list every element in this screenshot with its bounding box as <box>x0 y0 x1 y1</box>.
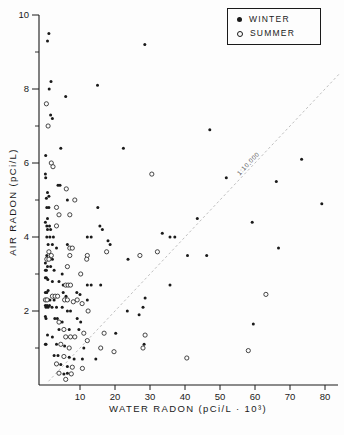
data-point-winter <box>126 310 129 313</box>
data-point-winter <box>48 88 51 91</box>
data-point-winter <box>53 354 56 357</box>
data-point-winter <box>55 306 58 309</box>
data-point-winter <box>51 280 54 283</box>
data-point-winter <box>64 95 67 98</box>
data-point-winter <box>48 304 51 307</box>
data-point-summer <box>68 213 72 217</box>
data-point-winter <box>45 269 48 272</box>
data-point-winter <box>186 254 189 257</box>
data-point-summer <box>54 205 58 209</box>
data-point-summer <box>64 335 68 339</box>
filled-circle-icon <box>237 17 242 22</box>
data-point-winter <box>45 236 48 239</box>
data-point-summer <box>44 102 48 106</box>
data-point-summer <box>264 292 268 296</box>
data-point-winter <box>251 221 254 224</box>
data-point-winter <box>99 284 102 287</box>
data-point-winter <box>57 354 60 357</box>
data-point-winter <box>44 221 47 224</box>
x-tick-label: 20 <box>110 391 121 402</box>
data-point-winter <box>44 173 47 176</box>
data-point-winter <box>94 358 97 361</box>
data-point-summer <box>67 346 71 350</box>
data-point-summer <box>73 335 77 339</box>
data-point-summer <box>64 377 68 381</box>
data-point-winter <box>143 343 146 346</box>
data-point-winter <box>66 199 69 202</box>
data-point-winter <box>68 328 71 331</box>
data-point-winter <box>59 147 62 150</box>
data-point-winter <box>107 239 110 242</box>
data-point-winter <box>196 217 199 220</box>
data-point-winter <box>68 356 71 359</box>
data-point-winter <box>46 39 49 42</box>
data-point-summer <box>85 339 89 343</box>
data-point-winter <box>114 332 117 335</box>
data-point-summer <box>112 350 116 354</box>
data-point-summer <box>69 372 73 376</box>
data-point-winter <box>44 154 47 157</box>
data-point-winter <box>205 254 208 257</box>
data-point-winter <box>73 358 76 361</box>
data-point-winter <box>45 343 48 346</box>
data-point-winter <box>62 291 65 294</box>
data-point-winter <box>173 236 176 239</box>
data-point-winter <box>75 291 78 294</box>
data-point-winter <box>47 206 50 209</box>
data-point-summer <box>68 283 72 287</box>
x-tick-label: 70 <box>285 391 296 402</box>
data-point-summer <box>73 198 77 202</box>
data-point-summer <box>82 331 86 335</box>
data-point-summer <box>64 187 68 191</box>
data-point-summer <box>56 294 60 298</box>
data-point-winter <box>65 295 68 298</box>
data-point-winter <box>66 310 69 313</box>
data-point-winter <box>169 236 172 239</box>
data-point-winter <box>66 365 69 368</box>
data-point-winter <box>76 317 79 320</box>
data-point-summer <box>86 309 90 313</box>
x-axis-title: WATER RADON (pCi/L · 10³) <box>109 403 267 414</box>
data-point-summer <box>141 346 145 350</box>
data-point-winter <box>98 224 101 227</box>
data-point-winter <box>45 254 48 257</box>
data-point-summer <box>155 250 159 254</box>
data-point-winter <box>161 232 164 235</box>
data-point-winter <box>86 298 89 301</box>
data-point-winter <box>46 217 49 220</box>
data-point-winter <box>61 306 64 309</box>
data-point-winter <box>51 335 54 338</box>
y-axis: 246810 <box>18 9 39 385</box>
legend-item-summer: SUMMER <box>237 28 314 39</box>
data-point-summer <box>185 356 189 360</box>
y-tick-label: 4 <box>24 231 29 242</box>
data-point-summer <box>65 298 69 302</box>
data-point-winter <box>46 278 49 281</box>
data-point-winter <box>62 372 65 375</box>
data-point-winter <box>143 43 146 46</box>
data-point-winter <box>101 228 104 231</box>
data-point-summer <box>70 365 74 369</box>
data-point-winter <box>46 334 49 337</box>
data-point-winter <box>49 265 52 268</box>
x-tick-label: 50 <box>215 391 226 402</box>
x-tick-label: 10 <box>75 391 86 402</box>
x-tick-label: 80 <box>320 391 331 402</box>
data-point-winter <box>144 297 147 300</box>
data-point-winter <box>77 328 80 331</box>
data-point-winter <box>59 184 62 187</box>
data-point-summer <box>68 253 72 257</box>
x-tick-label: 60 <box>250 391 261 402</box>
data-point-winter <box>82 347 85 350</box>
data-point-winter <box>51 306 54 309</box>
data-point-winter <box>55 247 58 250</box>
data-point-winter <box>142 306 145 309</box>
data-point-winter <box>51 243 54 246</box>
data-point-winter <box>66 372 69 375</box>
data-point-winter <box>208 128 211 131</box>
data-point-winter <box>320 202 323 205</box>
data-point-summer <box>65 265 69 269</box>
data-point-winter <box>225 176 228 179</box>
data-point-winter <box>138 313 141 316</box>
data-point-winter <box>96 84 99 87</box>
